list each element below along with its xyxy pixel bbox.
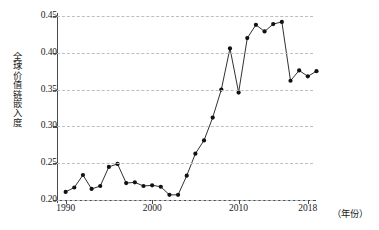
data-point-marker — [89, 187, 93, 191]
x-axis-title: （年份） — [332, 206, 368, 220]
data-point-marker — [159, 185, 163, 189]
x-tick-label: 1990 — [56, 203, 75, 214]
data-point-marker — [98, 184, 102, 188]
x-tick-label: 2000 — [143, 203, 162, 214]
plot-area — [57, 16, 313, 200]
gridline-y — [57, 163, 313, 164]
y-tick-mark — [53, 163, 57, 164]
data-point-marker — [185, 174, 189, 178]
y-tick-mark — [53, 90, 57, 91]
y-tick-mark — [53, 126, 57, 127]
data-point-marker — [107, 165, 111, 169]
y-tick-mark — [53, 200, 57, 201]
series-polyline — [66, 22, 317, 195]
x-tick-label: 2018 — [298, 203, 317, 214]
gridline-y — [57, 126, 313, 127]
data-point-marker — [176, 193, 180, 197]
line-chart: 全球价值链嵌入度 0.200.250.300.350.400.45 199020… — [0, 0, 379, 230]
data-point-marker — [288, 79, 292, 83]
gridline-y — [57, 90, 313, 91]
data-point-marker — [193, 152, 197, 156]
data-point-marker — [237, 90, 241, 94]
data-point-marker — [271, 22, 275, 26]
data-point-marker — [297, 68, 301, 72]
data-point-marker — [64, 190, 68, 194]
data-point-marker — [202, 138, 206, 142]
data-point-marker — [81, 173, 85, 177]
data-point-marker — [306, 74, 310, 78]
data-point-marker — [167, 193, 171, 197]
data-point-marker — [211, 115, 215, 119]
y-tick-mark — [53, 16, 57, 17]
data-point-marker — [228, 46, 232, 50]
gridline-y — [57, 16, 313, 17]
data-series-line — [57, 16, 313, 200]
data-point-marker — [314, 69, 318, 73]
gridline-y — [57, 200, 313, 201]
data-point-marker — [245, 36, 249, 40]
data-point-marker — [72, 185, 76, 189]
data-point-marker — [124, 181, 128, 185]
data-point-marker — [280, 20, 284, 24]
data-point-marker — [141, 184, 145, 188]
data-point-marker — [150, 183, 154, 187]
gridline-y — [57, 53, 313, 54]
y-tick-mark — [53, 53, 57, 54]
data-point-marker — [262, 29, 266, 33]
x-axis-tick-labels: 1990200020102018 — [0, 203, 379, 223]
data-point-marker — [133, 180, 137, 184]
x-tick-label: 2010 — [229, 203, 248, 214]
data-point-marker — [254, 23, 258, 27]
